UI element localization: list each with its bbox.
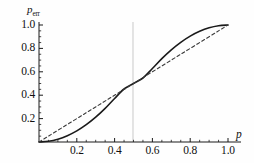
y-tick-label: 0.8 bbox=[5, 41, 35, 53]
x-tick-label: 0.6 bbox=[140, 144, 164, 156]
x-tick-label: 0.4 bbox=[103, 144, 127, 156]
chart-canvas bbox=[0, 0, 254, 163]
y-tick-label: 0.4 bbox=[5, 88, 35, 100]
chart-figure: perr p 0.20.40.60.81.00.20.40.60.81.0 bbox=[0, 0, 254, 163]
y-tick-label: 1.0 bbox=[5, 18, 35, 30]
y-tick-label: 0.6 bbox=[5, 65, 35, 77]
y-axis-label: perr bbox=[27, 3, 40, 18]
y-tick-label: 0.2 bbox=[5, 112, 35, 124]
x-axis-label: p bbox=[236, 128, 242, 140]
x-axis-ticks bbox=[48, 138, 228, 142]
y-axis-ticks bbox=[39, 25, 43, 136]
y-axis-label-subscript: err bbox=[33, 10, 40, 18]
x-tick-label: 0.8 bbox=[178, 144, 202, 156]
x-tick-label: 0.2 bbox=[65, 144, 89, 156]
x-tick-label: 1.0 bbox=[216, 144, 240, 156]
